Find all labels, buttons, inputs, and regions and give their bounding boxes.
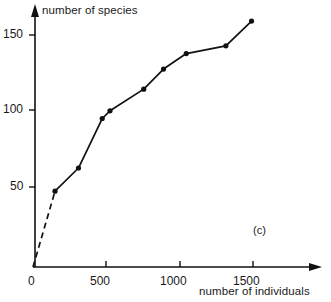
extrapolation-dashed-segment <box>33 191 55 267</box>
y-tick-label-150: 150 <box>3 27 23 41</box>
data-point-8 <box>249 18 254 23</box>
data-point-1 <box>76 165 81 170</box>
y-axis <box>31 4 39 267</box>
y-tick-label-50: 50 <box>10 179 23 193</box>
y-axis-title: number of species <box>42 4 138 16</box>
data-point-2 <box>100 116 105 121</box>
y-axis-ticks <box>29 35 35 187</box>
x-axis-ticks <box>106 261 253 267</box>
data-point-4 <box>141 87 146 92</box>
data-point-6 <box>184 51 189 56</box>
data-point-3 <box>107 108 112 113</box>
data-line <box>55 21 252 191</box>
x-tick-label-1500: 1500 <box>233 274 260 288</box>
x-tick-label-500: 500 <box>90 274 110 288</box>
data-point-markers <box>52 18 254 193</box>
data-point-0 <box>52 189 57 194</box>
species-accumulation-chart: number of species number of individuals … <box>0 0 331 302</box>
data-point-7 <box>223 43 228 48</box>
x-axis <box>33 263 322 271</box>
chart-plot-area <box>0 0 331 302</box>
y-tick-label-100: 100 <box>3 102 23 116</box>
data-point-5 <box>161 66 166 71</box>
x-tick-label-0: 0 <box>28 274 35 288</box>
panel-label: (c) <box>253 224 266 236</box>
x-tick-label-1000: 1000 <box>160 274 187 288</box>
